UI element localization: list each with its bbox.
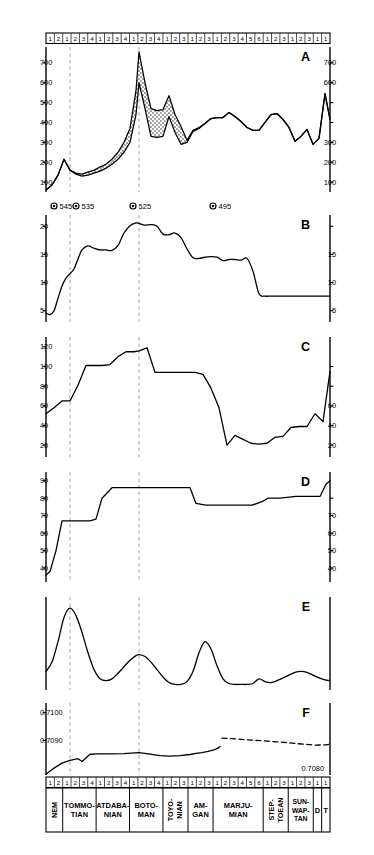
panel-a-label: A (301, 50, 310, 64)
top-axis-cell: 3 (232, 35, 236, 42)
top-axis-cell: 1 (266, 35, 270, 42)
top-axis-cell: 2 (107, 35, 111, 42)
top-axis-cell: 3 (307, 35, 311, 42)
bottom-axis-cell: 4 (241, 779, 245, 786)
panel-c-left-tick-label: 40 (40, 421, 48, 430)
stage-label: ATDABA- (96, 801, 130, 810)
panel-b-right-tick-label: 10 (328, 278, 336, 287)
panel-a-left-tick-label: 600 (40, 78, 52, 87)
panel-f-left-tick-label: 0.7090 (40, 736, 63, 745)
panel-d-right-tick-label: 40 (328, 564, 336, 573)
panel-c-left-tick-label: 80 (40, 382, 48, 391)
top-axis-cell: 2 (74, 35, 78, 42)
circled-dot-icon-center (75, 205, 78, 208)
panel-b-left-tick-label: 10 (40, 278, 48, 287)
panel-b-right-tick-label: 15 (328, 250, 336, 259)
panel-a-left-tick-label: 700 (40, 58, 52, 67)
age-marker-label: 535 (82, 202, 95, 211)
bottom-axis-cell: 2 (299, 779, 303, 786)
bottom-axis-cell: 2 (274, 779, 278, 786)
panel-d-left-tick-label: 60 (40, 529, 48, 538)
figure-background (0, 0, 374, 855)
bottom-axis-cell: 1 (65, 779, 69, 786)
stage-label: TOEAN (276, 797, 285, 822)
top-axis-cell: 2 (174, 35, 178, 42)
panel-e-label: E (302, 600, 310, 614)
bottom-axis-cell: 1 (324, 779, 328, 786)
bottom-axis-cell: 2 (174, 779, 178, 786)
panel-d-left-tick-label: 50 (40, 546, 48, 555)
bottom-axis-cell: 4 (124, 779, 128, 786)
bottom-axis-cell: 1 (216, 779, 220, 786)
panel-b-label: B (301, 218, 310, 232)
circled-dot-icon-center (212, 205, 215, 208)
top-axis-cell: 1 (291, 35, 295, 42)
panel-d-right-tick-label: 50 (328, 546, 336, 555)
stage-label: BOTO- (134, 801, 158, 810)
bottom-axis-cell: 2 (140, 779, 144, 786)
panel-f-label: F (302, 706, 310, 720)
age-marker: 535 (73, 202, 94, 211)
panel-a-right-tick-label: 300 (324, 138, 336, 147)
bottom-axis-cell: 3 (82, 779, 86, 786)
top-axis-cell: 2 (224, 35, 228, 42)
stage-subdivision-axis-top: 1212341234123412312312345612312311 (46, 33, 330, 44)
panel-d-left-tick-label: 40 (40, 564, 48, 573)
bottom-axis-cell: 1 (316, 779, 320, 786)
top-axis-cell: 3 (115, 35, 119, 42)
stage-label: STEP- (267, 799, 276, 821)
bottom-axis-cell: 2 (199, 779, 203, 786)
bottom-axis-cell: 6 (257, 779, 261, 786)
panel-c-right-tick-label: 60 (328, 401, 336, 410)
panel-a-left-tick-label: 200 (40, 158, 52, 167)
panel-b-left-tick-label: 5 (40, 306, 44, 315)
top-axis-cell: 2 (274, 35, 278, 42)
stage-label: NIAN (175, 801, 184, 819)
panel-a-right-tick-label: 700 (324, 58, 336, 67)
top-axis-cell: 4 (124, 35, 128, 42)
panel-c-label: C (301, 340, 310, 354)
circled-dot-icon-center (53, 205, 56, 208)
panel-b-left-tick-label: 15 (40, 250, 48, 259)
panel-c-left-tick-label: 60 (40, 401, 48, 410)
stage-label: MIAN (229, 810, 248, 819)
bottom-axis-cell: 1 (291, 779, 295, 786)
bottom-axis-cell: 3 (307, 779, 311, 786)
top-axis-cell: 1 (216, 35, 220, 42)
top-axis-cell: 4 (90, 35, 94, 42)
top-axis-cell: 3 (182, 35, 186, 42)
bottom-axis-cell: 4 (157, 779, 161, 786)
top-axis-cell: 5 (249, 35, 253, 42)
top-axis-cell: 6 (257, 35, 261, 42)
panel-b-right-tick-label: 5 (332, 306, 336, 315)
top-axis-cell: 1 (165, 35, 169, 42)
panel-a-left-tick-label: 500 (40, 98, 52, 107)
stage-label: T (324, 806, 329, 815)
stage-label: NIAN (104, 810, 122, 819)
panel-a-left-tick-label: 100 (40, 178, 52, 187)
panel-d-left-tick-label: 70 (40, 511, 48, 520)
bottom-axis-cell: 3 (232, 779, 236, 786)
top-axis-cell: 2 (140, 35, 144, 42)
circled-dot-icon-center (132, 205, 135, 208)
stage-label: TOYO- (166, 798, 175, 821)
bottom-axis-cell: 5 (249, 779, 253, 786)
panel-c-left-tick-label: 100 (40, 362, 52, 371)
panel-c-left-tick-label: 20 (40, 441, 48, 450)
age-marker-label: 525 (139, 202, 152, 211)
bottom-axis-cell: 3 (149, 779, 153, 786)
bottom-axis-cell: 2 (74, 779, 78, 786)
stage-label: WAP- (292, 807, 310, 814)
stage-label: AM- (194, 801, 208, 810)
bottom-axis-cell: 1 (48, 779, 52, 786)
bottom-axis-cell: 1 (99, 779, 103, 786)
panel-c-right-tick-label: 20 (328, 441, 336, 450)
top-axis-cell: 2 (299, 35, 303, 42)
bottom-axis-cell: 3 (282, 779, 286, 786)
panel-d-right-tick-label: 70 (328, 511, 336, 520)
panel-c-left-tick-label: 120 (40, 342, 52, 351)
stage-label: MAN (138, 810, 155, 819)
panel-d-left-tick-label: 90 (40, 476, 48, 485)
panel-d-label: D (301, 475, 310, 489)
panel-b-left-tick-label: 20 (40, 222, 48, 231)
